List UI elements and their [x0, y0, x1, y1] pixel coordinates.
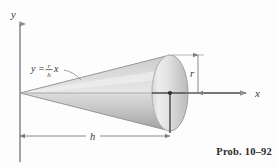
equation-denominator: h: [47, 71, 51, 79]
y-axis-label: y: [10, 8, 16, 20]
height-dimension-label: h: [90, 131, 95, 142]
cone-diagram: y x y = r h x: [0, 0, 278, 168]
equation-numerator: r: [48, 62, 51, 70]
equation-lhs: y: [30, 63, 36, 74]
equation-variable: x: [53, 63, 59, 74]
equation-equals: =: [38, 63, 45, 74]
problem-caption: Prob. 10–92: [216, 146, 272, 157]
figure-container: y x y = r h x: [0, 0, 278, 168]
x-axis-label: x: [254, 87, 260, 99]
